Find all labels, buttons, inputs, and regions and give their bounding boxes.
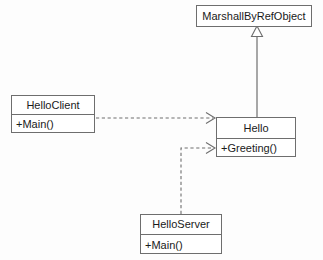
class-box-marshallbyrefobject[interactable]: MarshallByRefObject (196, 5, 312, 27)
class-name-hello: Hello (217, 118, 295, 138)
dependency-helloclient-to-hello (96, 113, 215, 124)
class-box-helloclient[interactable]: HelloClient +Main() (11, 95, 95, 133)
class-name-marshallbyrefobject: MarshallByRefObject (197, 6, 311, 26)
class-name-helloserver: HelloServer (141, 215, 221, 234)
class-box-helloserver[interactable]: HelloServer +Main() (140, 214, 222, 254)
class-member-helloserver-main: +Main() (141, 235, 221, 255)
dependency-helloserver-to-hello (181, 143, 215, 215)
class-name-helloclient: HelloClient (12, 96, 94, 114)
uml-class-diagram: MarshallByRefObject HelloClient +Main() … (0, 0, 323, 260)
hollow-triangle-arrowhead (252, 26, 263, 37)
dependency-line (181, 148, 213, 214)
generalization-hello-to-marshall (252, 26, 263, 117)
class-member-hello-greeting: +Greeting() (217, 139, 295, 158)
class-box-hello[interactable]: Hello +Greeting() (216, 117, 296, 157)
class-member-helloclient-main: +Main() (12, 115, 94, 134)
